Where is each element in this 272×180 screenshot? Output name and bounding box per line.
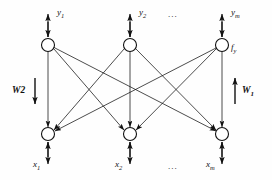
output-ellipsis: ... <box>168 10 178 19</box>
label-x1: x1 <box>33 160 40 171</box>
label-f-y: fy <box>231 43 236 54</box>
node-x2[interactable] <box>124 128 137 141</box>
node-xm[interactable] <box>216 128 229 141</box>
label-w2: W2 <box>12 86 25 98</box>
label-ym: ym <box>231 8 240 19</box>
label-y1: y1 <box>57 8 64 19</box>
input-external-arrows <box>48 142 222 164</box>
node-ym[interactable] <box>216 39 229 52</box>
output-layer-nodes <box>42 39 229 52</box>
node-y2[interactable] <box>124 39 137 52</box>
label-x2: x2 <box>115 160 122 171</box>
node-y1[interactable] <box>42 39 55 52</box>
label-w1: W1 <box>242 86 254 98</box>
output-external-arrows <box>48 14 222 37</box>
bam-network-diagram: y1 y2 ym ... fy x1 x2 xm ... W2 W1 <box>0 0 272 180</box>
input-layer-nodes <box>42 128 229 141</box>
interlayer-connections <box>48 48 222 131</box>
network-graphics <box>0 0 272 180</box>
weight-direction-arrows <box>35 78 235 104</box>
input-ellipsis: ... <box>168 162 178 171</box>
label-y2: y2 <box>139 8 146 19</box>
label-xm: xm <box>206 160 215 171</box>
node-x1[interactable] <box>42 128 55 141</box>
